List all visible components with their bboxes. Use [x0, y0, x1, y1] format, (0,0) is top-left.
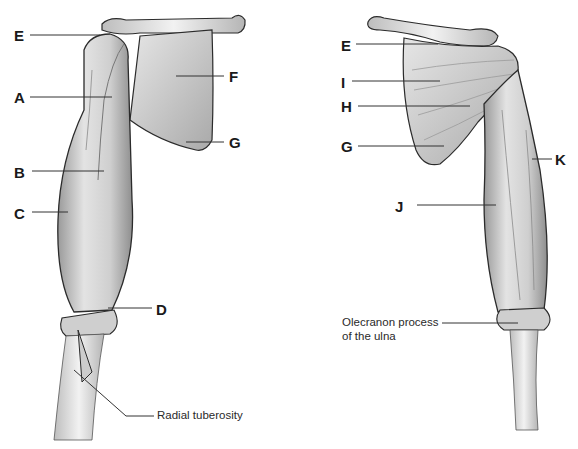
label-h: H	[341, 99, 352, 114]
arm-illustrations	[0, 0, 578, 449]
diagram-canvas: E A F G B C D Radial tuberosity E I H G …	[0, 0, 578, 449]
forearm-right	[510, 330, 538, 430]
label-b: B	[14, 165, 25, 180]
label-f: F	[229, 69, 238, 84]
clavicle-acromion-right	[368, 17, 498, 46]
label-d: D	[156, 302, 167, 317]
forearm-left	[54, 334, 104, 440]
posterior-arm-view	[368, 17, 550, 430]
annotation-olecranon-line1: Olecranon process	[342, 316, 439, 330]
label-e-left: E	[14, 28, 24, 43]
label-e-right: E	[341, 38, 351, 53]
scapula-subscapularis	[130, 30, 213, 150]
label-a: A	[14, 90, 25, 105]
anterior-arm-view	[54, 15, 245, 440]
annotation-olecranon: Olecranon process of the ulna	[342, 316, 439, 344]
label-g-right: G	[341, 139, 353, 154]
annotation-radial-tuberosity: Radial tuberosity	[157, 409, 243, 423]
label-g-left: G	[229, 135, 241, 150]
triceps	[484, 70, 547, 312]
clavicle-left	[102, 15, 245, 34]
elbow-right	[497, 308, 550, 330]
elbow-left	[61, 310, 118, 336]
label-j: J	[395, 199, 403, 214]
annotation-olecranon-line2: of the ulna	[342, 330, 439, 344]
label-i: I	[341, 75, 345, 90]
label-c: C	[14, 206, 25, 221]
upper-arm-muscles	[58, 34, 133, 312]
label-k: K	[555, 152, 566, 167]
